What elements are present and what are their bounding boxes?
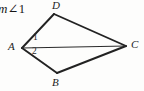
segment-AD	[22, 14, 54, 48]
angle-label-2: 2	[32, 47, 37, 57]
vertex-label-A: A	[8, 41, 15, 52]
segment-BA	[22, 48, 57, 73]
kite-diagram	[0, 0, 144, 91]
segment-CB	[57, 46, 126, 73]
vertex-label-C: C	[131, 39, 138, 50]
vertex-label-B: B	[52, 77, 59, 88]
angle-label-1: 1	[33, 33, 38, 43]
geometry-figure: m∠1 D A C B 1 2	[0, 0, 144, 91]
vertex-label-D: D	[52, 0, 60, 11]
segment-AC-diagonal	[22, 46, 126, 48]
segment-DC	[54, 14, 126, 46]
